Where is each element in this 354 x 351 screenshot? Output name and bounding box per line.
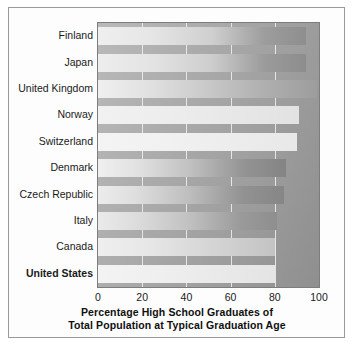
bar-italy bbox=[98, 212, 277, 230]
bar-row bbox=[98, 106, 319, 124]
y-axis-label-japan: Japan bbox=[1, 56, 93, 68]
bar-row bbox=[98, 159, 319, 177]
y-axis-label-united-states: United States bbox=[1, 267, 93, 279]
x-axis-tick-40: 40 bbox=[181, 291, 193, 303]
chart-figure: FinlandJapanUnited KingdomNorwaySwitzerl… bbox=[0, 0, 354, 351]
bar-switzerland bbox=[98, 133, 297, 151]
y-axis-label-finland: Finland bbox=[1, 29, 93, 41]
y-axis-label-norway: Norway bbox=[1, 108, 93, 120]
x-axis-tick-60: 60 bbox=[225, 291, 237, 303]
x-axis-tick-0: 0 bbox=[95, 291, 101, 303]
y-axis-label-canada: Canada bbox=[1, 240, 93, 252]
bar-united-states bbox=[98, 265, 275, 283]
bar-finland bbox=[98, 27, 306, 45]
y-axis-label-united-kingdom: United Kingdom bbox=[1, 82, 93, 94]
bar-row bbox=[98, 238, 319, 256]
bar-row bbox=[98, 54, 319, 72]
bar-row bbox=[98, 80, 319, 98]
x-axis-title-line-2: Total Population at Typical Graduation A… bbox=[20, 319, 334, 332]
bar-united-kingdom bbox=[98, 80, 317, 98]
bar-row bbox=[98, 186, 319, 204]
x-axis-tick-80: 80 bbox=[269, 291, 281, 303]
bar-row bbox=[98, 133, 319, 151]
y-axis-label-czech-republic: Czech Republic bbox=[1, 188, 93, 200]
bar-japan bbox=[98, 54, 306, 72]
bar-denmark bbox=[98, 159, 286, 177]
x-axis-tick-20: 20 bbox=[136, 291, 148, 303]
x-axis-tick-100: 100 bbox=[310, 291, 328, 303]
x-axis-title-line-1: Percentage High School Graduates of bbox=[20, 306, 334, 319]
x-axis-ticks: 020406080100 bbox=[97, 289, 320, 305]
y-axis-label-switzerland: Switzerland bbox=[1, 135, 93, 147]
bar-row bbox=[98, 212, 319, 230]
x-axis-title: Percentage High School Graduates ofTotal… bbox=[20, 306, 334, 332]
y-axis-label-denmark: Denmark bbox=[1, 161, 93, 173]
bar-row bbox=[98, 265, 319, 283]
plot-area bbox=[97, 22, 320, 288]
bar-row bbox=[98, 27, 319, 45]
bar-canada bbox=[98, 238, 275, 256]
y-axis-labels: FinlandJapanUnited KingdomNorwaySwitzerl… bbox=[0, 22, 93, 288]
bar-norway bbox=[98, 106, 299, 124]
bar-czech-republic bbox=[98, 186, 284, 204]
y-axis-label-italy: Italy bbox=[1, 214, 93, 226]
